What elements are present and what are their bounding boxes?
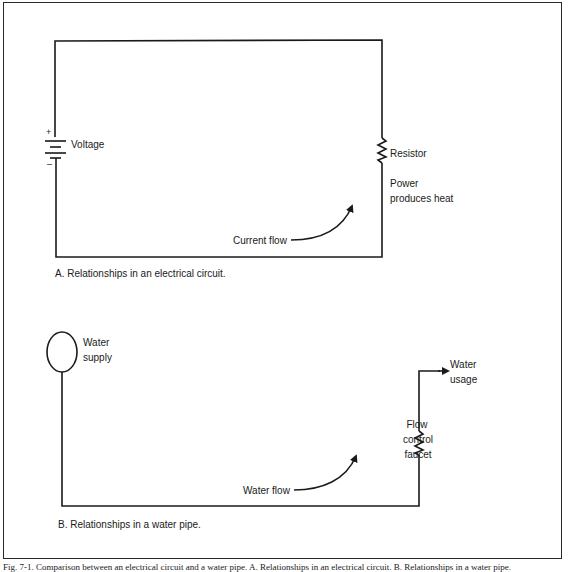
circuit-wire-top: [55, 40, 382, 138]
water-usage-label-line1: Water: [450, 357, 476, 372]
power-label-line1: Power: [390, 176, 418, 191]
panel-b-caption: B. Relationships in a water pipe.: [58, 519, 201, 530]
current-flow-label: Current flow: [233, 233, 287, 248]
panel-a-caption: A. Relationships in an electrical circui…: [55, 268, 226, 279]
water-supply-tank-icon: [47, 332, 77, 372]
power-label-line2: produces heat: [390, 191, 453, 206]
faucet-label-line1: Flow: [399, 417, 435, 432]
faucet-label-line3: faucet: [394, 447, 442, 462]
plus-sign: +: [46, 125, 51, 140]
faucet-label-line2: control: [394, 432, 442, 447]
pipe-bottom: [62, 372, 419, 506]
water-flow-arrow-icon: [294, 456, 356, 490]
current-flow-arrow-icon: [291, 206, 352, 240]
circuit-wire-bottom: [56, 158, 382, 257]
resistor-icon: [378, 138, 386, 163]
water-usage-label-line2: usage: [450, 372, 477, 387]
minus-sign: –: [47, 157, 52, 172]
water-flow-label: Water flow: [243, 483, 290, 498]
water-supply-label-line2: supply: [83, 350, 112, 365]
resistor-label: Resistor: [390, 146, 427, 161]
battery-icon: [45, 141, 66, 158]
electrical-circuit: [55, 40, 386, 257]
figure-caption: Fig. 7-1. Comparison between an electric…: [3, 562, 511, 572]
water-supply-label-line1: Water: [83, 335, 109, 350]
voltage-label: Voltage: [71, 137, 104, 152]
